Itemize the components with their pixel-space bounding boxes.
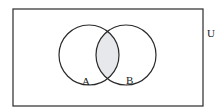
universal-set-label: U xyxy=(207,27,215,39)
set-b-label: B xyxy=(126,74,133,86)
venn-diagram: A B U xyxy=(0,0,220,110)
set-a-label: A xyxy=(82,75,90,87)
